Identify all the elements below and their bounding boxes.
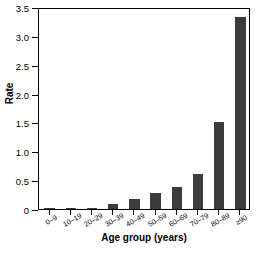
bar <box>44 208 55 209</box>
y-tick: 1.0 <box>32 152 38 153</box>
bar <box>150 193 161 209</box>
y-tick: 1.5 <box>32 123 38 124</box>
y-tick-label: 0.5 <box>3 176 29 187</box>
y-tick: 0 <box>32 210 38 211</box>
y-tick-label: 3.0 <box>3 32 29 43</box>
y-tick-label: 1.5 <box>3 118 29 129</box>
y-tick: 2.0 <box>32 95 38 96</box>
plot-area <box>38 8 250 210</box>
y-tick-label: 2.0 <box>3 90 29 101</box>
y-tick: 0.5 <box>32 181 38 182</box>
bar <box>214 122 225 209</box>
bar <box>193 174 204 209</box>
bar-chart-figure: Rate 00.51.01.52.02.53.03.5 0–910–1920–2… <box>0 0 257 253</box>
bars-layer <box>39 9 249 209</box>
y-tick-label: 1.0 <box>3 147 29 158</box>
y-tick: 3.5 <box>32 8 38 9</box>
y-tick-label: 3.5 <box>3 3 29 14</box>
y-tick-label: 2.5 <box>3 61 29 72</box>
y-tick: 3.0 <box>32 37 38 38</box>
y-tick: 2.5 <box>32 66 38 67</box>
bar <box>172 187 183 209</box>
y-tick-label: 0 <box>3 205 29 216</box>
x-axis-title: Age group (years) <box>38 232 250 243</box>
bar <box>235 17 246 209</box>
